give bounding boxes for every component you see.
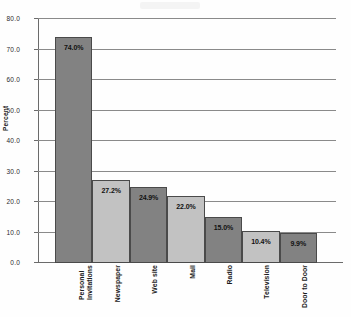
bar: 24.9% [130,187,167,263]
bar-value-label: 24.9% [131,194,166,201]
category-labels: PersonalInvitationsNewspaperWeb siteMail… [55,265,317,317]
y-axis-label: 30.0 [7,167,20,174]
bar: 9.9% [280,233,317,263]
scan-artifact [140,2,200,9]
bar: 22.0% [167,196,204,263]
y-axis-tick [34,262,38,263]
y-axis-label: 80.0 [7,15,20,22]
bar-value-label: 74.0% [56,44,91,51]
y-axis-tick [34,110,38,111]
bar-chart: Percent 80.070.060.050.040.030.020.010.0… [0,0,351,317]
y-axis-label: 60.0 [7,76,20,83]
y-axis-tick [34,49,38,50]
bar-value-label: 27.2% [93,187,128,194]
y-axis-tick [34,232,38,233]
bars-layer: 74.0%27.2%24.9%22.0%15.0%10.4%9.9% [55,18,317,263]
bar: 15.0% [205,217,242,263]
bar-value-label: 15.0% [206,224,241,231]
y-axis-tick [34,171,38,172]
bar-value-label: 22.0% [168,203,203,210]
x-axis-label: PersonalInvitations [78,265,93,300]
y-axis-label: 20.0 [7,198,20,205]
bar-value-label: 9.9% [281,240,316,247]
bar-value-label: 10.4% [243,238,278,245]
bar: 10.4% [242,231,279,263]
bar: 74.0% [55,37,92,263]
x-axis-label: Web site [151,265,159,294]
y-axis-label: 0.0 [10,259,20,266]
y-axis-label: 10.0 [7,228,20,235]
bar: 27.2% [92,180,129,263]
y-axis-tick [34,79,38,80]
y-axis-tick [34,201,38,202]
y-axis-tick [34,18,38,19]
y-axis-label: 40.0 [7,137,20,144]
x-axis-label: Television [263,265,271,299]
x-axis-label: Newspaper [114,265,122,302]
y-axis-label: 70.0 [7,45,20,52]
x-axis-label: Door to Door [301,265,309,308]
x-axis-label: Radio [226,265,234,284]
x-axis-label: Mail [189,265,197,279]
y-axis-label: 50.0 [7,106,20,113]
y-axis-tick [34,140,38,141]
